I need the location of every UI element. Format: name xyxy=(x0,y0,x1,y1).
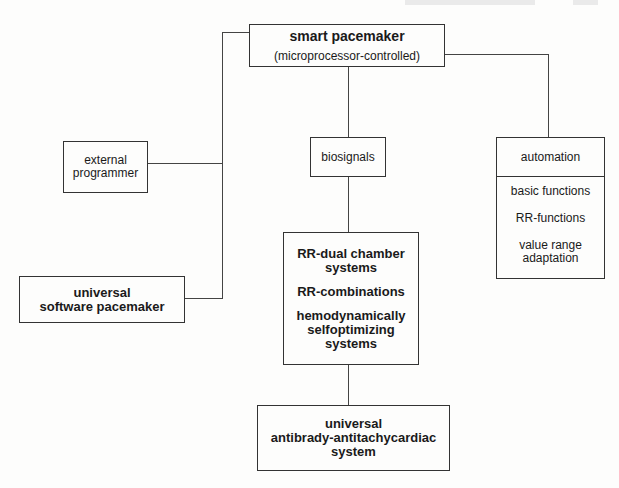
connector-biosignals-rr xyxy=(348,176,349,232)
bottom-line3: system xyxy=(331,445,376,459)
automation-item-basic: basic functions xyxy=(511,185,590,198)
automation-header: automation xyxy=(497,138,604,177)
rr-line2: systems xyxy=(325,261,377,275)
rr-line6: systems xyxy=(325,337,377,351)
automation-item-rr: RR-functions xyxy=(516,212,585,225)
rr-line4: hemodynamically xyxy=(296,309,405,323)
connector-root-right xyxy=(444,54,549,55)
root-title: smart pacemaker xyxy=(289,28,404,44)
connector-universal-software xyxy=(184,298,223,299)
connector-left-trunk xyxy=(222,32,223,299)
external-programmer-line2: programmer xyxy=(73,167,138,180)
automation-label: automation xyxy=(521,151,580,164)
automation-box: automation basic functions RR-functions … xyxy=(496,137,605,279)
usp-line2: software pacemaker xyxy=(39,300,164,314)
antibrady-antitachycardiac-box: universal antibrady-antitachycardiac sys… xyxy=(257,405,450,471)
rr-line1: RR-dual chamber xyxy=(297,247,405,261)
automation-item-adaptation: adaptation xyxy=(522,252,578,265)
connector-right-trunk xyxy=(548,54,549,137)
rr-systems-box: RR-dual chamber systems RR-combinations … xyxy=(283,232,419,365)
page-header-fragment xyxy=(405,0,535,5)
smart-pacemaker-box: smart pacemaker (microprocessor-controll… xyxy=(249,24,445,67)
rr-line5: selfoptimizing xyxy=(307,323,394,337)
bottom-line2: antibrady-antitachycardiac xyxy=(271,431,436,445)
root-subtitle: (microprocessor-controlled) xyxy=(274,50,420,63)
usp-line1: universal xyxy=(73,286,130,300)
connector-rr-bottom xyxy=(348,364,349,405)
biosignals-label: biosignals xyxy=(321,151,374,164)
bottom-line1: universal xyxy=(325,417,382,431)
external-programmer-box: external programmer xyxy=(63,141,148,193)
biosignals-box: biosignals xyxy=(310,137,386,177)
connector-root-left xyxy=(222,32,250,33)
connector-external-programmer xyxy=(147,163,223,164)
page-number-fragment xyxy=(573,0,598,5)
universal-software-pacemaker-box: universal software pacemaker xyxy=(19,276,185,323)
connector-root-biosignals xyxy=(348,66,349,137)
rr-line3: RR-combinations xyxy=(297,285,405,299)
